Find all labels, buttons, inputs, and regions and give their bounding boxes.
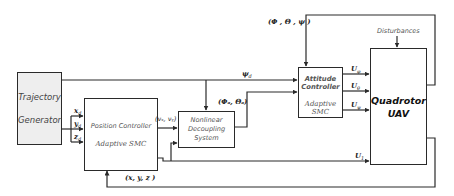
u-psi-label: Uψ (351, 100, 361, 110)
nonlinear-decoupling-block: Nonlinear Decoupling System (178, 111, 235, 148)
nonlinear-decoupling-line1: Nonlinear (191, 116, 223, 125)
x-d-label: xd (74, 106, 81, 116)
quadrotor-line1: Quadrotor (371, 94, 426, 107)
position-controller-title: Position Controller (91, 122, 152, 130)
u-theta-label: Uθ (351, 81, 360, 91)
quadrotor-line2: UAV (388, 107, 409, 120)
u-phi-label: Uφ (351, 64, 361, 74)
phi-theta-d-label: (Φₐ, Θₐ) (218, 97, 247, 106)
disturbances-label: Disturbances (377, 27, 420, 35)
attitude-controller-subtitle: Adaptive SMC (299, 100, 342, 116)
control-block-diagram: Trajectory Generator Position Controller… (0, 0, 454, 196)
quadrotor-uav-block: Quadrotor UAV (370, 48, 427, 165)
y-d-label: yd (74, 119, 81, 129)
u1-line (157, 158, 369, 161)
position-feedback-label: (x, y, z ) (125, 173, 155, 182)
z-d-label: zd (74, 132, 81, 142)
attitude-controller-block: Attitude Controller Adaptive SMC (298, 67, 343, 118)
virtual-inputs-label: (vₓ, vᵧ) (155, 115, 176, 123)
trajectory-generator-block: Trajectory Generator (17, 72, 62, 145)
nonlinear-decoupling-line3: System (194, 134, 219, 143)
trajectory-generator-line1: Trajectory (18, 92, 61, 102)
u1-to-decoupling-line (171, 143, 177, 161)
u1-label: U1 (355, 151, 364, 161)
position-controller-subtitle: Adaptive SMC (96, 140, 147, 148)
trajectory-generator-line2: Generator (18, 115, 61, 125)
psi-d-label: ψd (242, 69, 252, 79)
nonlinear-decoupling-line2: Decoupling (188, 125, 225, 134)
attitude-controller-title: Attitude Controller (297, 75, 344, 91)
attitude-feedback-label: (Φ , Θ , ψ ) (268, 17, 310, 26)
position-controller-block: Position Controller Adaptive SMC (84, 98, 158, 171)
